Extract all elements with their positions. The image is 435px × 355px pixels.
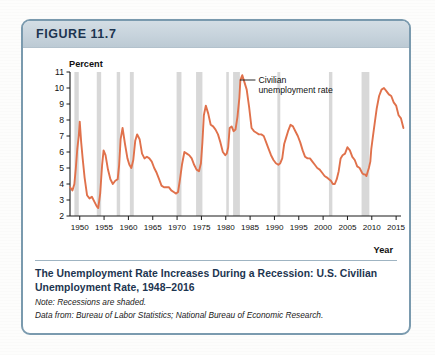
x-tick-label: 1990 <box>265 223 284 232</box>
y-tick-label: 8 <box>59 115 64 125</box>
annotation-line-1: Civilian <box>258 75 286 85</box>
caption-note-lead: Note: <box>35 297 55 307</box>
caption-note: Note: Recessions are shaded. <box>35 297 397 309</box>
x-tick-label: 2010 <box>363 223 382 232</box>
x-tick-label: 1985 <box>241 223 260 232</box>
x-tick-label: 1955 <box>95 223 114 232</box>
y-tick-label: 9 <box>59 99 64 109</box>
x-tick-label: 1965 <box>144 223 163 232</box>
unemployment-rate-line-chart: 111098765432 195019551960196519701975198… <box>23 48 409 260</box>
x-axis-tick-labels: 1950195519601965197019751980198519901995… <box>71 223 406 232</box>
x-tick-label: 1980 <box>217 223 236 232</box>
x-tick-label: 2005 <box>338 223 357 232</box>
series-annotation: Civilian unemployment rate <box>240 75 333 95</box>
caption-source-lead: Data from: <box>35 310 74 320</box>
y-tick-label: 3 <box>59 195 64 205</box>
y-tick-label: 6 <box>59 147 64 157</box>
caption-source: Data from: Bureau of Labor Statistics; N… <box>35 310 397 322</box>
chart-plot-region: 111098765432 195019551960196519701975198… <box>23 48 409 260</box>
x-axis-title: Year <box>374 245 394 255</box>
caption-title: The Unemployment Rate Increases During a… <box>35 267 397 295</box>
figure-card: FIGURE 11.7 111098765432 195019551960196… <box>21 19 411 335</box>
x-tick-label: 1970 <box>168 223 187 232</box>
y-axis-title: Percent <box>69 59 103 69</box>
figure-header-band: FIGURE 11.7 <box>23 21 409 48</box>
x-tick-label: 1960 <box>119 223 138 232</box>
y-tick-label: 2 <box>59 211 64 221</box>
y-tick-label: 5 <box>59 163 64 173</box>
x-tick-label: 1950 <box>71 223 90 232</box>
caption-note-body: Recessions are shaded. <box>57 297 146 307</box>
y-axis-tick-labels: 111098765432 <box>54 67 64 221</box>
x-tick-label: 2015 <box>387 223 406 232</box>
y-tick-label: 11 <box>55 67 64 77</box>
x-tick-label: 2000 <box>314 223 333 232</box>
x-tick-label: 1975 <box>192 223 211 232</box>
figure-number-label: FIGURE 11.7 <box>23 27 116 41</box>
figure-caption-block: The Unemployment Rate Increases During a… <box>35 260 397 322</box>
caption-source-body: Bureau of Labor Statistics; National Bur… <box>76 310 323 320</box>
annotation-line-2: unemployment rate <box>258 85 333 95</box>
x-tick-label: 1995 <box>290 223 309 232</box>
y-tick-label: 7 <box>59 131 64 141</box>
y-tick-label: 4 <box>59 179 64 189</box>
y-tick-label: 10 <box>54 83 64 93</box>
